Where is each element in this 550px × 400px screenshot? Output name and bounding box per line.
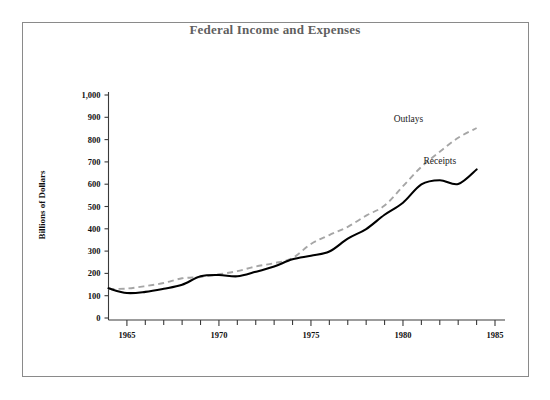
x-tick-label: 1975 xyxy=(302,330,319,340)
x-tick-label: 1985 xyxy=(487,330,504,340)
series-line-receipts xyxy=(109,169,477,293)
series-label-receipts: Receipts xyxy=(423,156,456,166)
y-tick-label: 900 xyxy=(88,112,101,122)
y-tick-label: 500 xyxy=(88,202,101,212)
chart-plot-area: 1,0009008007006005004003002001000 196519… xyxy=(0,0,550,400)
x-axis-tick-labels: 19651970197519801985 xyxy=(118,330,503,340)
series-label-outlays: Outlays xyxy=(394,114,424,124)
y-tick-label: 600 xyxy=(88,179,101,189)
x-axis-ticks xyxy=(127,320,495,326)
y-tick-label: 1,000 xyxy=(81,90,100,100)
y-tick-label: 0 xyxy=(96,313,100,323)
x-tick-label: 1965 xyxy=(118,330,135,340)
y-tick-label: 200 xyxy=(88,268,101,278)
y-tick-label: 700 xyxy=(88,157,101,167)
x-tick-label: 1980 xyxy=(394,330,411,340)
y-axis-tick-labels: 1,0009008007006005004003002001000 xyxy=(81,90,100,323)
series-line-outlays xyxy=(109,128,477,289)
x-tick-label: 1970 xyxy=(210,330,227,340)
chart-page: Federal Income and Expenses 1,0009008007… xyxy=(0,0,550,400)
y-tick-label: 300 xyxy=(88,246,101,256)
y-axis-title: Billions of Dollars xyxy=(37,170,47,240)
axes-group xyxy=(109,92,506,320)
y-axis-ticks xyxy=(105,95,109,318)
y-tick-label: 800 xyxy=(88,135,101,145)
y-tick-label: 400 xyxy=(88,224,101,234)
series-annotations: OutlaysReceipts xyxy=(394,114,457,166)
y-tick-label: 100 xyxy=(88,291,101,301)
